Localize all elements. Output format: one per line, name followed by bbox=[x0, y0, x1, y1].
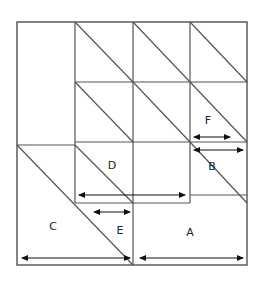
region-label-b: B bbox=[208, 160, 216, 173]
region-label-d: D bbox=[108, 159, 116, 172]
figure-canvas: A B C D E F bbox=[0, 0, 264, 284]
region-label-a: A bbox=[186, 226, 194, 239]
region-label-c: C bbox=[49, 220, 57, 233]
dissection-figure: A B C D E F bbox=[0, 0, 264, 284]
region-label-f: F bbox=[205, 114, 211, 127]
region-label-e: E bbox=[117, 224, 124, 237]
